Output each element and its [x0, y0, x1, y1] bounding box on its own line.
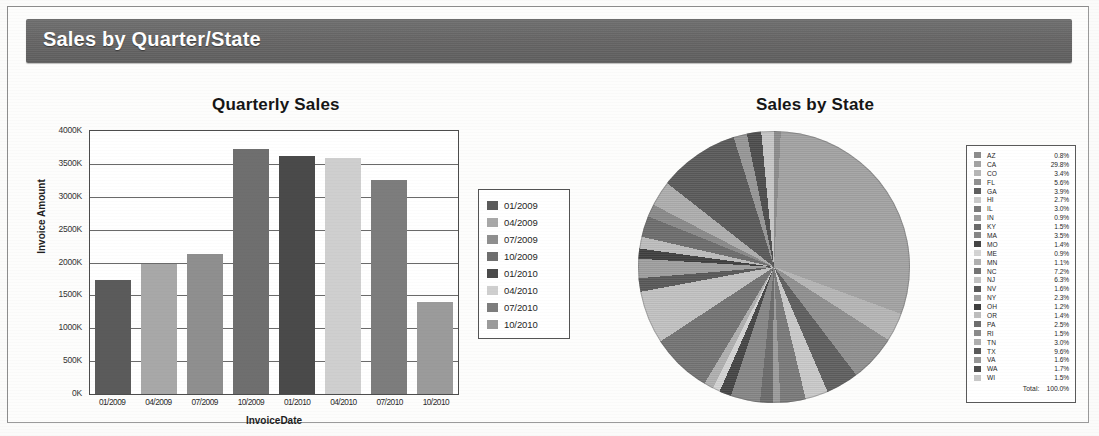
pie-legend-item[interactable]: RI1.5% — [974, 329, 1069, 338]
pie-legend-state-label: WI — [987, 374, 1054, 381]
pie-legend-item[interactable]: AZ0.8% — [974, 151, 1069, 160]
bar-y-tick: 3500K — [58, 158, 82, 168]
legend-swatch-icon — [487, 235, 498, 244]
pie-legend-item[interactable]: VA1.6% — [974, 355, 1069, 364]
bar-legend-label: 07/2010 — [504, 302, 538, 313]
bar-legend-item[interactable]: 04/2009 — [487, 214, 569, 231]
bar-y-tick: 1000K — [58, 322, 82, 332]
legend-swatch-icon — [487, 286, 498, 295]
legend-swatch-icon — [974, 197, 981, 203]
bar[interactable] — [233, 149, 269, 394]
bar-y-tick: 1500K — [58, 289, 82, 299]
bar-legend-item[interactable]: 07/2010 — [487, 299, 569, 316]
pie-legend-item[interactable]: FL5.6% — [974, 178, 1069, 187]
bar-legend-item[interactable]: 01/2010 — [487, 265, 569, 282]
pie-legend-state-label: OR — [987, 312, 1054, 319]
bar-legend-item[interactable]: 10/2009 — [487, 248, 569, 265]
pie-legend-item[interactable]: ME0.9% — [974, 249, 1069, 258]
pie-legend-item[interactable]: NV1.6% — [974, 284, 1069, 293]
pie-legend-rows: AZ0.8%CA29.8%CO3.4%FL5.6%GA3.9%HI2.7%IL3… — [974, 151, 1069, 382]
pie-legend-state-label: TX — [987, 348, 1054, 355]
pie-legend-percent-value: 1.5% — [1054, 223, 1069, 230]
legend-swatch-icon — [487, 201, 498, 210]
pie-legend-item[interactable]: PA2.5% — [974, 320, 1069, 329]
bar-x-tick: 04/2009 — [135, 397, 181, 411]
pie-legend-item[interactable]: KY1.5% — [974, 222, 1069, 231]
bar-y-tick: 2500K — [58, 224, 82, 234]
legend-swatch-icon — [974, 206, 981, 212]
pie-legend-item[interactable]: GA3.9% — [974, 187, 1069, 196]
bar-legend-label: 01/2009 — [504, 200, 538, 211]
bar[interactable] — [371, 180, 407, 394]
pie-legend-percent-value: 1.7% — [1054, 365, 1069, 372]
pie-legend-item[interactable]: MA3.5% — [974, 231, 1069, 240]
pie-legend-percent-value: 1.2% — [1054, 303, 1069, 310]
pie-legend-percent-value: 3.5% — [1054, 232, 1069, 239]
pie-legend-item[interactable]: CO3.4% — [974, 169, 1069, 178]
pie-legend-state-label: MA — [987, 232, 1054, 239]
pie-legend-total-row: Total: 100.0% — [974, 383, 1069, 393]
bar-series — [90, 131, 458, 394]
pie-legend-state-label: NC — [987, 268, 1054, 275]
pie-legend-state-label: HI — [987, 196, 1054, 203]
bar-legend-item[interactable]: 01/2009 — [487, 197, 569, 214]
pie-legend-percent-value: 2.3% — [1054, 294, 1069, 301]
bar-slot — [228, 131, 274, 394]
legend-swatch-icon — [487, 269, 498, 278]
pie-legend-percent-value: 9.6% — [1054, 348, 1069, 355]
pie-legend-item[interactable]: TN3.0% — [974, 338, 1069, 347]
pie-legend-percent-value: 1.4% — [1054, 312, 1069, 319]
pie-legend-percent-value: 1.5% — [1054, 374, 1069, 381]
pie-area — [630, 131, 920, 411]
pie-legend-item[interactable]: NY2.3% — [974, 293, 1069, 302]
bar-legend-item[interactable]: 10/2010 — [487, 316, 569, 333]
bar-legend-label: 10/2010 — [504, 319, 538, 330]
pie-legend-state-label: NV — [987, 285, 1054, 292]
pie-legend-item[interactable]: HI2.7% — [974, 195, 1069, 204]
pie-legend-percent-value: 1.5% — [1054, 330, 1069, 337]
pie-legend-percent-value: 3.9% — [1054, 188, 1069, 195]
pie-legend-percent-value: 0.9% — [1054, 250, 1069, 257]
bar-y-tick: 3000K — [58, 191, 82, 201]
report-header-bar: Sales by Quarter/State — [26, 19, 1072, 63]
bar-y-tick: 4000K — [58, 125, 82, 135]
pie-legend-state-label: TN — [987, 339, 1054, 346]
pie-legend-state-label: KY — [987, 223, 1054, 230]
pie-legend-item[interactable]: OH1.2% — [974, 302, 1069, 311]
bar[interactable] — [187, 254, 223, 394]
pie-legend-item[interactable]: IN0.9% — [974, 213, 1069, 222]
pie-legend-item[interactable]: WA1.7% — [974, 364, 1069, 373]
bar[interactable] — [417, 302, 453, 394]
pie-legend-item[interactable]: NC7.2% — [974, 267, 1069, 276]
pie-legend-item[interactable]: MO1.4% — [974, 240, 1069, 249]
pie-legend-item[interactable]: IL3.0% — [974, 204, 1069, 213]
pie-legend-percent-value: 0.9% — [1054, 214, 1069, 221]
pie-graphic — [638, 131, 910, 403]
bar-x-tick: 01/2010 — [274, 397, 320, 411]
bar-legend-label: 04/2010 — [504, 285, 538, 296]
pie-legend-item[interactable]: NJ6.3% — [974, 275, 1069, 284]
pie-legend-item[interactable]: OR1.4% — [974, 311, 1069, 320]
pie-legend-item[interactable]: CA29.8% — [974, 160, 1069, 169]
bar-y-tick-labels: 0K500K1000K1500K2000K2500K3000K3500K4000… — [26, 123, 86, 402]
pie-legend-total-value: 100.0% — [1047, 385, 1069, 392]
bar[interactable] — [325, 158, 361, 394]
bar-legend-item[interactable]: 07/2009 — [487, 231, 569, 248]
page-title: Sales by Quarter/State — [43, 28, 261, 51]
pie-legend-item[interactable]: TX9.6% — [974, 347, 1069, 356]
bar-x-tick-labels: 01/200904/200907/200910/200901/201004/20… — [89, 397, 459, 411]
pie-legend-state-label: NJ — [987, 276, 1054, 283]
bar-legend-item[interactable]: 04/2010 — [487, 282, 569, 299]
pie-legend-item[interactable]: WI1.5% — [974, 373, 1069, 382]
pie-legend-item[interactable]: MN1.1% — [974, 258, 1069, 267]
pie-legend-percent-value: 2.7% — [1054, 196, 1069, 203]
bar[interactable] — [141, 264, 177, 394]
bar[interactable] — [279, 156, 315, 394]
bar-slot — [90, 131, 136, 394]
pie-legend-state-label: CA — [987, 161, 1051, 168]
pie-legend-state-label: AZ — [987, 152, 1054, 159]
bar[interactable] — [95, 280, 131, 394]
legend-swatch-icon — [974, 366, 981, 372]
legend-swatch-icon — [974, 232, 981, 238]
legend-swatch-icon — [974, 215, 981, 221]
